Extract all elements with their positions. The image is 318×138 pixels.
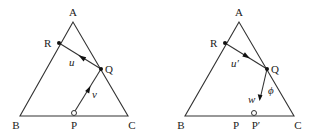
point-p-prime-marker (252, 111, 257, 116)
label-b-right: B (177, 119, 184, 131)
label-phi: ϕ (268, 84, 274, 96)
point-q (99, 67, 103, 71)
left-diagram: A B C P Q R u v (12, 6, 135, 131)
label-r: R (44, 37, 52, 49)
right-diagram: A B C P P′ Q R u′ w ϕ (177, 6, 301, 131)
label-q-right: Q (271, 63, 279, 75)
vector-w (261, 69, 268, 97)
label-a-right: A (235, 6, 243, 18)
point-r-right (223, 41, 227, 45)
point-r (57, 41, 61, 45)
label-u: u (69, 56, 75, 68)
point-q-right (265, 67, 269, 71)
label-b: B (12, 119, 19, 131)
arrow-u-prime-icon (242, 52, 250, 58)
label-p-prime: P′ (252, 119, 261, 131)
label-r-right: R (210, 37, 218, 49)
arrow-w-icon (258, 94, 263, 101)
label-p: P (71, 119, 77, 131)
label-u-prime: u′ (231, 57, 240, 69)
arrow-u-icon (79, 55, 87, 61)
label-v: v (92, 88, 97, 100)
label-p-right: P (233, 119, 239, 131)
label-a: A (69, 6, 77, 18)
label-w: w (248, 93, 256, 105)
label-q: Q (105, 63, 113, 75)
diagram-canvas: A B C P Q R u v A B C P P′ Q R u′ w ϕ (0, 0, 318, 138)
label-c: C (128, 119, 135, 131)
point-p-marker (72, 111, 77, 116)
label-c-right: C (294, 119, 301, 131)
